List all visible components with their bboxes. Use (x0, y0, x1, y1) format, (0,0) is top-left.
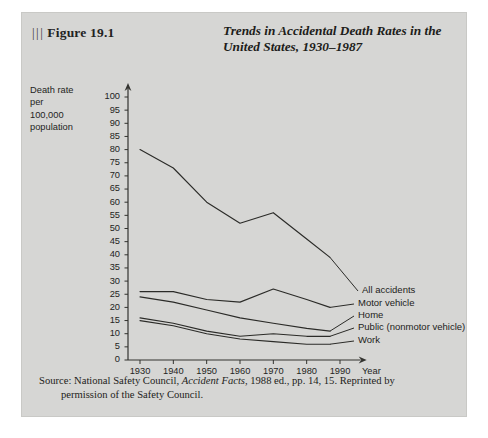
y-axis-tick-label: 0 (98, 355, 120, 364)
line-chart: 0510152025303540455055606570758085909510… (22, 13, 466, 416)
y-axis-tick-label: 45 (98, 237, 120, 246)
data-series-line (140, 289, 330, 307)
y-axis-tick-label: 65 (98, 184, 120, 193)
series-label-leader-line (330, 341, 354, 344)
series-label-leader-line (330, 304, 354, 307)
chart-plot-svg (22, 13, 466, 416)
source-lead: Source: (39, 375, 71, 386)
y-axis-tick-label: 100 (98, 92, 120, 101)
y-axis-tick-label: 25 (98, 290, 120, 299)
y-axis-tick-label: 80 (98, 145, 120, 154)
y-axis-tick-label: 15 (98, 316, 120, 325)
y-axis-tick-label: 5 (98, 342, 120, 351)
y-axis-tick-label: 10 (98, 329, 120, 338)
source-italic-title: Accident Facts (182, 375, 245, 386)
data-series-line (140, 150, 330, 258)
data-series-line (140, 321, 330, 345)
y-axis-tick-label: 50 (98, 224, 120, 233)
series-label-public-nonmotor-vehicle: Public (nonmotor vehicle) (358, 321, 465, 332)
y-axis-tick-label: 70 (98, 171, 120, 180)
y-axis-tick-label: 85 (98, 132, 120, 141)
y-axis-tick-label: 90 (98, 119, 120, 128)
figure-panel: ||| Figure 19.1 Trends in Accidental Dea… (22, 13, 466, 416)
y-axis-tick-label: 55 (98, 211, 120, 220)
source-text-after: , 1988 ed., pp. 14, 15. Reprinted by (245, 375, 395, 386)
series-label-motor-vehicle: Motor vehicle (358, 297, 415, 308)
source-text-before: National Safety Council, (71, 375, 181, 386)
y-axis-tick-label: 20 (98, 303, 120, 312)
y-axis-tick-label: 95 (98, 106, 120, 115)
y-axis-tick-label: 30 (98, 277, 120, 286)
source-line-2: permission of the Safety Council. (39, 388, 451, 402)
y-axis-tick-label: 40 (98, 250, 120, 259)
series-label-all-accidents: All accidents (362, 284, 415, 295)
series-label-leader-line (330, 257, 358, 291)
y-axis-tick-label: 75 (98, 158, 120, 167)
series-label-home: Home (358, 309, 383, 320)
source-note: Source: National Safety Council, Acciden… (39, 374, 451, 401)
y-axis-tick-label: 35 (98, 263, 120, 272)
series-label-work: Work (358, 334, 380, 345)
y-axis-tick-label: 60 (98, 198, 120, 207)
